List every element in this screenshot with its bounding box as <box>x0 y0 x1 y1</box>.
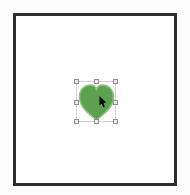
selection-handle-e[interactable] <box>113 100 118 105</box>
selection-box[interactable] <box>76 81 116 122</box>
app-stage <box>0 0 190 195</box>
selection-handle-nw[interactable] <box>74 79 79 84</box>
selection-handle-se[interactable] <box>113 119 118 124</box>
selection-handle-n[interactable] <box>94 79 99 84</box>
selection-handle-w[interactable] <box>74 100 79 105</box>
drawing-canvas[interactable] <box>13 13 177 186</box>
selection-handle-s[interactable] <box>94 119 99 124</box>
selection-handle-sw[interactable] <box>74 119 79 124</box>
selection-handle-ne[interactable] <box>113 79 118 84</box>
